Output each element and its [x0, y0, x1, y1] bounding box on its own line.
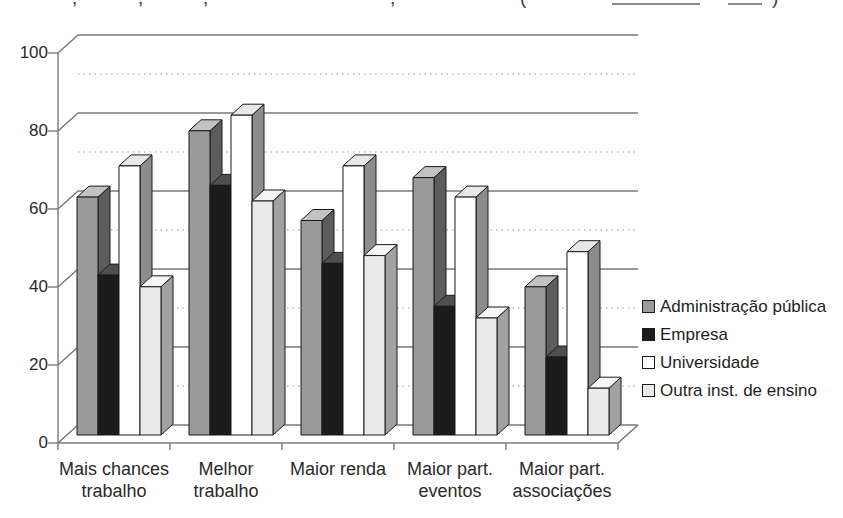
bar-front — [210, 185, 231, 435]
bar-side — [497, 307, 509, 435]
legend-label: Universidade — [660, 353, 759, 373]
category-label-line: trabalho — [160, 480, 292, 502]
bar-front — [455, 197, 476, 435]
y-tick-label: 40 — [0, 277, 48, 297]
legend-item: Empresa — [642, 324, 826, 345]
gridline-major — [58, 35, 638, 53]
bar-front — [364, 256, 385, 435]
bar-front — [567, 252, 588, 435]
bar-front — [140, 287, 161, 435]
bar-front — [77, 197, 98, 435]
bar-front — [413, 178, 434, 435]
bar-front — [189, 131, 210, 435]
chart-figure: ,,,,() 100 80 60 40 20 0 Mais chances tr… — [0, 0, 843, 518]
bar-front — [476, 318, 497, 435]
legend-item: Universidade — [642, 352, 826, 373]
y-tick-label: 60 — [0, 199, 48, 219]
bar-front — [301, 221, 322, 436]
bar-front — [231, 115, 252, 435]
bar-side — [385, 245, 397, 435]
category-label: Maior part. associações — [496, 458, 628, 502]
legend-swatch — [642, 384, 655, 397]
bar-front — [119, 166, 140, 435]
bar-front — [525, 287, 546, 435]
bar-side — [273, 190, 285, 435]
legend-swatch — [642, 328, 655, 341]
legend-swatch — [642, 356, 655, 369]
legend-swatch — [642, 300, 655, 313]
bar-front — [322, 263, 343, 435]
gridline-major — [58, 113, 638, 131]
chart-canvas — [0, 0, 843, 518]
bar-front — [588, 388, 609, 435]
bar-front — [343, 166, 364, 435]
legend-label: Administração pública — [660, 297, 826, 317]
legend-label: Empresa — [660, 325, 728, 345]
legend-label: Outra inst. de ensino — [660, 381, 817, 401]
y-tick-label: 0 — [0, 433, 48, 453]
y-tick-label: 80 — [0, 121, 48, 141]
y-tick-label: 20 — [0, 355, 48, 375]
legend: Administração pública Empresa Universida… — [642, 296, 826, 408]
bar-front — [546, 357, 567, 435]
bar-front — [98, 275, 119, 435]
bar-front — [252, 201, 273, 435]
legend-item: Outra inst. de ensino — [642, 380, 826, 401]
legend-item: Administração pública — [642, 296, 826, 317]
bar-front — [434, 306, 455, 435]
category-label-line: Maior part. — [496, 458, 628, 480]
bar-side — [161, 276, 173, 435]
y-tick-label: 100 — [0, 43, 48, 63]
floor-right-edge — [618, 425, 638, 443]
category-label-line: associações — [496, 480, 628, 502]
